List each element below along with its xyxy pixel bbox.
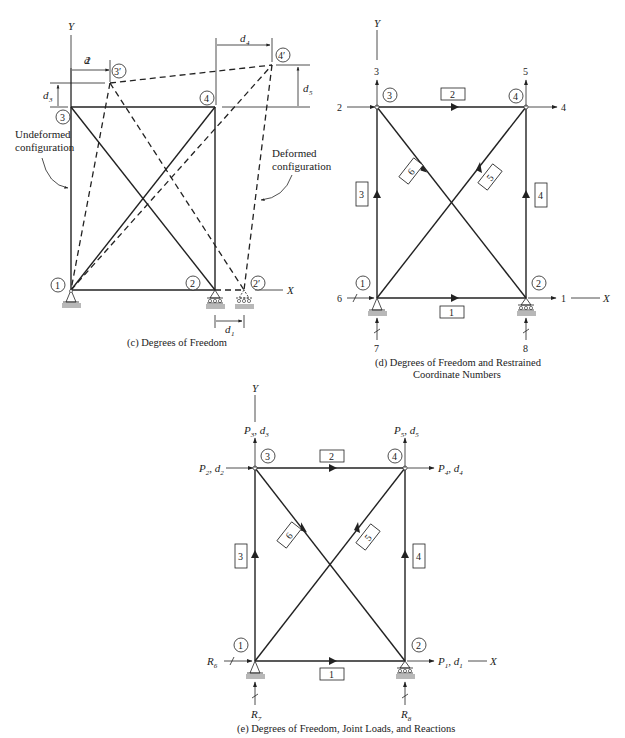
panel-e-joint-loads-reactions: Y 2 1 3 4 6 <box>198 382 498 735</box>
caption-d-line2: Coordinate Numbers <box>413 369 501 380</box>
svg-text:5: 5 <box>523 66 528 77</box>
svg-text:3: 3 <box>387 90 392 101</box>
member-label-3: 3 <box>356 182 368 206</box>
node-2: 2 <box>186 276 200 290</box>
node-3: 3 <box>383 88 397 102</box>
undeformed-label-line1: Undeformed <box>15 128 71 140</box>
undeformed-label-line2: configuration <box>15 141 75 153</box>
member-label-6: 6 <box>277 522 301 548</box>
svg-text:1: 1 <box>449 307 454 318</box>
svg-text:3: 3 <box>238 551 243 562</box>
svg-text:2: 2 <box>337 102 342 113</box>
svg-text:1: 1 <box>231 330 235 338</box>
svg-text:3: 3 <box>48 96 53 104</box>
y-axis-label: Y <box>252 382 260 394</box>
node-4: 4 <box>388 449 402 463</box>
caption-d-line1: (d) Degrees of Freedom and Restrained <box>375 357 542 369</box>
load-P3-label: P3, d3 <box>243 424 269 439</box>
svg-text:1: 1 <box>360 278 365 289</box>
x-axis-label: X <box>286 284 295 296</box>
member-label-5: 5 <box>478 164 502 190</box>
caption-c: (c) Degrees of Freedom <box>127 337 227 349</box>
svg-text:4: 4 <box>513 91 518 102</box>
panel-c-degrees-of-freedom: Y X 2 d d 3 <box>15 20 332 349</box>
node-4: 4 <box>509 89 523 103</box>
member-label-5: 5 <box>356 524 380 550</box>
member-label-1: 1 <box>320 668 344 680</box>
load-P4-label: P4, d4 <box>437 462 463 477</box>
x-axis-label: X <box>489 655 498 667</box>
node-3: 3 <box>261 449 275 463</box>
svg-text:2: 2 <box>190 278 195 289</box>
deformed-pointer-arrow <box>261 175 292 200</box>
reaction-R8-label: R8 <box>400 708 412 723</box>
svg-text:4: 4 <box>246 39 250 47</box>
node-2-deformed: 2′ <box>251 276 265 290</box>
node-1: 1 <box>51 278 65 292</box>
roller-support-node-2-deformed <box>235 290 254 309</box>
svg-text:1: 1 <box>238 640 243 651</box>
truss-figure: Y X 2 d d 3 <box>0 0 625 738</box>
undeformed-pointer-arrow <box>42 158 68 188</box>
svg-text:5: 5 <box>309 89 313 97</box>
member-label-4: 4 <box>413 544 425 568</box>
member-label-2: 2 <box>441 88 465 100</box>
svg-text:2: 2 <box>450 89 455 100</box>
svg-text:6: 6 <box>337 293 342 304</box>
pin-support-node-1 <box>246 661 265 679</box>
node-4: 4 <box>200 91 214 105</box>
member-label-1: 1 <box>440 306 464 318</box>
svg-text:1: 1 <box>55 280 60 291</box>
roller-support-node-2 <box>396 661 415 679</box>
x-axis-label: X <box>602 292 611 304</box>
svg-text:3: 3 <box>60 112 65 123</box>
svg-text:1: 1 <box>329 669 334 680</box>
svg-text:4: 4 <box>561 102 566 113</box>
pin-support-node-1 <box>368 298 387 316</box>
svg-text:3′: 3′ <box>114 66 121 77</box>
deformed-truss <box>71 65 272 290</box>
svg-text:4: 4 <box>392 451 397 462</box>
load-P5-label: P5, d5 <box>393 424 419 439</box>
member-label-2: 2 <box>320 450 344 462</box>
svg-text:3: 3 <box>359 189 364 200</box>
caption-e: (e) Degrees of Freedom, Joint Loads, and… <box>237 723 455 735</box>
roller-support-node-2 <box>206 290 225 309</box>
node-1: 1 <box>356 276 370 290</box>
svg-text:3: 3 <box>374 66 379 77</box>
deformed-label-line1: Deformed <box>272 147 317 159</box>
reaction-R6-label: R6 <box>206 655 218 670</box>
deformed-label-line2: configuration <box>272 160 332 172</box>
node-4-deformed: 4′ <box>276 48 290 62</box>
panel-d-coordinate-numbers: Y 2 1 3 4 6 <box>337 17 611 380</box>
y-axis-label: Y <box>374 17 382 29</box>
svg-text:4′: 4′ <box>278 50 285 61</box>
svg-text:3: 3 <box>265 451 270 462</box>
node-2: 2 <box>532 276 546 290</box>
pin-support-node-1 <box>62 290 81 309</box>
node-3: 3 <box>56 110 70 124</box>
svg-text:7: 7 <box>374 343 379 354</box>
svg-text:2: 2 <box>329 451 334 462</box>
svg-text:1: 1 <box>561 293 566 304</box>
reaction-R7-label: R7 <box>250 708 262 723</box>
load-P2-label: P2, d2 <box>198 462 224 477</box>
svg-text:8: 8 <box>523 343 528 354</box>
node-2: 2 <box>412 638 426 652</box>
svg-text:2: 2 <box>536 278 541 289</box>
member-label-4: 4 <box>535 183 547 207</box>
svg-text:d: d <box>84 54 90 66</box>
svg-text:4: 4 <box>416 551 421 562</box>
svg-text:4: 4 <box>204 93 209 104</box>
svg-text:2: 2 <box>416 640 421 651</box>
load-P1-label: P1, d1 <box>437 655 463 670</box>
svg-text:2′: 2′ <box>253 278 260 289</box>
svg-text:4: 4 <box>538 190 543 201</box>
member-label-3: 3 <box>235 544 247 568</box>
node-3-deformed: 3′ <box>112 64 126 78</box>
roller-support-node-2 <box>517 298 536 316</box>
node-1: 1 <box>234 638 248 652</box>
y-axis-label: Y <box>68 20 76 32</box>
